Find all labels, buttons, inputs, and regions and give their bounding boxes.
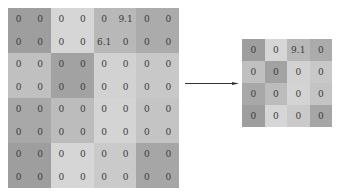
- input-cell: 0: [51, 76, 72, 99]
- input-cell: 0: [94, 76, 115, 99]
- output-cell: 0: [287, 83, 310, 105]
- input-cell: 0: [8, 166, 29, 189]
- input-cell: 0: [29, 121, 50, 144]
- input-cell: 0: [158, 8, 179, 31]
- input-cell: 0: [136, 8, 157, 31]
- input-cell: 0: [94, 53, 115, 76]
- input-cell: 6.1: [94, 31, 115, 54]
- input-cell: 0: [72, 8, 93, 31]
- input-cell: 0: [115, 53, 136, 76]
- input-cell: 0: [115, 166, 136, 189]
- input-cell: 0: [158, 98, 179, 121]
- input-cell: 0: [94, 166, 115, 189]
- input-cell: 0: [72, 143, 93, 166]
- input-feature-map: 000009.10000006.100000000000000000000000…: [8, 8, 179, 188]
- input-cell: 0: [8, 98, 29, 121]
- output-cell: 0: [242, 61, 265, 83]
- input-cell: 0: [8, 8, 29, 31]
- input-cell: 0: [158, 143, 179, 166]
- input-cell: 0: [29, 166, 50, 189]
- input-cell: 0: [115, 143, 136, 166]
- input-cell: 0: [8, 121, 29, 144]
- input-cell: 0: [29, 31, 50, 54]
- input-cell: 0: [51, 31, 72, 54]
- output-cell: 0: [242, 83, 265, 105]
- arrow-right-icon: [185, 82, 239, 85]
- input-cell: 0: [72, 98, 93, 121]
- pooled-output-map: 009.10000000000000: [242, 39, 332, 127]
- input-cell: 0: [158, 53, 179, 76]
- input-cell: 0: [51, 53, 72, 76]
- input-cell: 0: [8, 53, 29, 76]
- input-cell: 0: [72, 166, 93, 189]
- input-cell: 0: [51, 98, 72, 121]
- input-cell: 0: [94, 121, 115, 144]
- input-cell: 0: [136, 121, 157, 144]
- output-cell: 0: [310, 83, 333, 105]
- input-cell: 0: [136, 53, 157, 76]
- input-cell: 0: [158, 76, 179, 99]
- input-cell: 0: [29, 98, 50, 121]
- output-cell: 9.1: [287, 39, 310, 61]
- input-cell: 0: [29, 53, 50, 76]
- output-cell: 0: [265, 83, 288, 105]
- input-cell: 0: [94, 8, 115, 31]
- input-cell: 0: [94, 98, 115, 121]
- input-cell: 0: [115, 98, 136, 121]
- input-cell: 0: [158, 31, 179, 54]
- input-cell: 0: [8, 76, 29, 99]
- output-cell: 0: [310, 105, 333, 127]
- input-cell: 0: [94, 143, 115, 166]
- output-cell: 0: [265, 105, 288, 127]
- input-cell: 0: [51, 166, 72, 189]
- input-cell: 0: [158, 166, 179, 189]
- input-cell: 0: [72, 76, 93, 99]
- input-cell: 0: [51, 143, 72, 166]
- input-cell: 0: [8, 31, 29, 54]
- input-cell: 0: [115, 31, 136, 54]
- input-cell: 0: [136, 31, 157, 54]
- input-cell: 0: [51, 8, 72, 31]
- input-cell: 0: [29, 76, 50, 99]
- output-cell: 0: [242, 105, 265, 127]
- input-cell: 0: [29, 143, 50, 166]
- input-cell: 0: [136, 166, 157, 189]
- input-cell: 0: [8, 143, 29, 166]
- output-cell: 0: [242, 39, 265, 61]
- input-cell: 9.1: [115, 8, 136, 31]
- input-cell: 0: [136, 76, 157, 99]
- input-cell: 0: [115, 76, 136, 99]
- input-cell: 0: [72, 121, 93, 144]
- output-cell: 0: [265, 61, 288, 83]
- input-cell: 0: [29, 8, 50, 31]
- output-cell: 0: [310, 39, 333, 61]
- input-cell: 0: [72, 53, 93, 76]
- output-cell: 0: [287, 61, 310, 83]
- input-cell: 0: [51, 121, 72, 144]
- output-cell: 0: [310, 61, 333, 83]
- input-cell: 0: [136, 143, 157, 166]
- input-cell: 0: [136, 98, 157, 121]
- input-cell: 0: [115, 121, 136, 144]
- input-cell: 0: [72, 31, 93, 54]
- input-cell: 0: [158, 121, 179, 144]
- output-cell: 0: [287, 105, 310, 127]
- output-cell: 0: [265, 39, 288, 61]
